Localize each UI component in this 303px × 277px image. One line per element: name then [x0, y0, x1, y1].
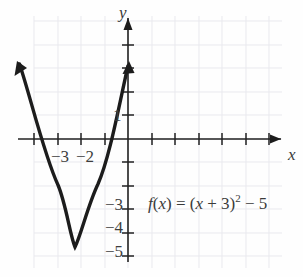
x-axis-label: x — [288, 146, 296, 163]
equation-paren-close-1: ) — [166, 194, 172, 213]
y-tick-label-neg5: −5 — [105, 243, 123, 260]
function-equation: f(x) = (x + 3)2 − 5 — [148, 195, 267, 212]
y-tick-label-1: 1 — [113, 107, 122, 124]
equation-var-1: x — [158, 194, 166, 213]
equation-var-2: x — [195, 194, 203, 213]
y-tick-label-neg4: −4 — [105, 219, 123, 236]
equation-plus: + — [207, 194, 217, 213]
x-tick-label-neg3: −3 — [51, 148, 69, 165]
equation-minus: − — [245, 194, 255, 213]
parabola-graph-figure — [0, 0, 303, 277]
x-tick-label-neg2: −2 — [76, 148, 94, 165]
equation-five: 5 — [259, 194, 268, 213]
equation-three: 3 — [221, 194, 230, 213]
y-tick-label-neg3: −3 — [105, 196, 123, 213]
x-axis-arrow-icon — [270, 135, 281, 144]
equation-equals: = — [176, 194, 186, 213]
y-axis-label: y — [119, 4, 127, 21]
equation-exponent: 2 — [235, 192, 241, 204]
y-axis — [124, 18, 133, 262]
